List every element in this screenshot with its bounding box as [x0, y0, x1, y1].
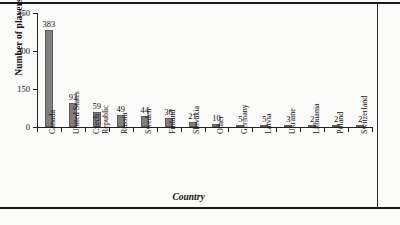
- x-tick-mark: [324, 128, 325, 132]
- y-tick-label: 450: [4, 8, 30, 18]
- category-label: Sweden: [144, 109, 153, 134]
- x-tick-mark: [61, 128, 62, 132]
- x-tick-mark: [181, 128, 182, 132]
- page-rule-bottom: [0, 207, 400, 209]
- y-tick-label: 150: [4, 84, 30, 94]
- category-label: Russia: [120, 113, 129, 134]
- category-label: United States: [72, 91, 81, 134]
- y-tick-mark: [33, 89, 37, 90]
- y-axis-line: [37, 13, 38, 128]
- category-label: Germany: [240, 104, 249, 134]
- category-label: Ukraine: [288, 108, 297, 134]
- x-tick-mark: [37, 128, 38, 132]
- page-rule-right: [377, 3, 378, 208]
- x-tick-mark: [300, 128, 301, 132]
- x-tick-mark: [372, 128, 373, 132]
- x-tick-mark: [85, 128, 86, 132]
- category-label: Lithuania: [312, 103, 321, 134]
- bar-chart: Number of players 0150300450 38393594944…: [0, 4, 377, 204]
- x-axis-title: Country: [0, 192, 377, 202]
- category-label: Latvia: [264, 114, 273, 134]
- figure-page: Number of players 0150300450 38393594944…: [0, 0, 400, 225]
- x-tick-mark: [252, 128, 253, 132]
- x-tick-mark: [276, 128, 277, 132]
- x-tick-mark: [348, 128, 349, 132]
- category-label: Canada: [48, 110, 57, 134]
- y-tick-mark: [33, 13, 37, 14]
- y-tick-mark: [33, 51, 37, 52]
- x-tick-mark: [205, 128, 206, 132]
- x-tick-mark: [133, 128, 134, 132]
- x-tick-mark: [228, 128, 229, 132]
- category-label: Finland: [168, 110, 177, 134]
- y-tick-label: 0: [4, 122, 30, 132]
- category-label: Other: [216, 116, 225, 134]
- y-tick-label: 300: [4, 46, 30, 56]
- bar-value-label: 383: [43, 19, 56, 29]
- category-label: Poland: [336, 112, 345, 134]
- category-label: CzechRepublic: [92, 105, 110, 134]
- x-tick-mark: [157, 128, 158, 132]
- category-label: Slovakia: [192, 106, 201, 134]
- category-label: Switzerland: [360, 96, 369, 134]
